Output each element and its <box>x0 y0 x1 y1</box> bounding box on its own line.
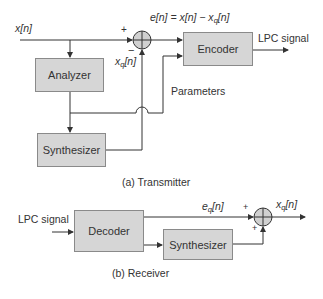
receiver-caption: (b) Receiver <box>112 267 169 279</box>
rx-plus-top: + <box>243 202 248 212</box>
tx-output-label: LPC signal <box>258 32 309 44</box>
feedback-label: xq[n] <box>115 55 136 69</box>
rx-input-label: LPC signal <box>18 213 69 225</box>
rx-output-label: xq[n] <box>276 198 297 212</box>
rx-synth-to-summer <box>233 227 263 244</box>
decoder-block: Decoder <box>74 210 144 252</box>
encoder-block: Encoder <box>183 32 253 66</box>
error-equation: e[n] = x[n] − xq[n] <box>150 11 229 25</box>
tx-synthesizer-block: Synthesizer <box>37 133 106 167</box>
tx-summing-junction <box>133 31 151 49</box>
tx-input-label: x[n] <box>15 22 32 34</box>
analyzer-block: Analyzer <box>35 58 104 92</box>
rx-synthesizer-block: Synthesizer <box>163 229 233 260</box>
tx-plus-sign: + <box>121 24 127 35</box>
eq-label: eq[n] <box>202 200 224 214</box>
rx-plus-bottom: + <box>252 223 257 233</box>
parameters-label: Parameters <box>171 85 225 97</box>
transmitter-caption: (a) Transmitter <box>122 176 190 188</box>
